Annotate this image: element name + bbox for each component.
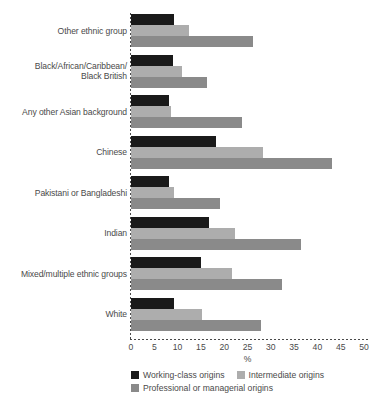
bar-row	[0, 279, 379, 290]
bar	[131, 228, 235, 239]
chart-legend: Working-class origins Intermediate origi…	[131, 368, 379, 394]
bar	[131, 158, 332, 169]
legend-label: Professional or managerial origins	[143, 383, 273, 393]
bar-row	[0, 55, 379, 66]
x-tick-label: 10	[166, 342, 190, 352]
bar	[131, 117, 242, 128]
bar	[131, 187, 174, 198]
bar-row	[0, 158, 379, 169]
bar	[131, 55, 173, 66]
bar	[131, 239, 301, 250]
bar-group	[0, 55, 379, 88]
bar	[131, 279, 282, 290]
bar-row	[0, 95, 379, 106]
bar-group	[0, 257, 379, 290]
bar-row	[0, 25, 379, 36]
x-tick-label: 5	[142, 342, 166, 352]
bar-row	[0, 239, 379, 250]
x-tick-label: 50	[352, 342, 376, 352]
bar-row	[0, 268, 379, 279]
bar	[131, 217, 209, 228]
bar-row	[0, 117, 379, 128]
x-tick-label: 40	[305, 342, 329, 352]
x-tick-label: 0	[119, 342, 143, 352]
legend-swatch-icon	[237, 371, 245, 379]
bar-row	[0, 298, 379, 309]
bar-group	[0, 95, 379, 128]
bar	[131, 106, 171, 117]
bar-row	[0, 228, 379, 239]
bar-row	[0, 36, 379, 47]
bar-group	[0, 176, 379, 209]
x-tick-label: 20	[212, 342, 236, 352]
bar	[131, 257, 201, 268]
legend-swatch-icon	[131, 384, 139, 392]
x-tick-label: 25	[236, 342, 260, 352]
bar	[131, 66, 182, 77]
bar-row	[0, 198, 379, 209]
bar	[131, 77, 207, 88]
x-tick-label: 45	[329, 342, 353, 352]
bar-group	[0, 14, 379, 47]
bar-row	[0, 187, 379, 198]
bar-row	[0, 106, 379, 117]
legend-item-working-class[interactable]: Working-class origins	[131, 370, 225, 380]
bar	[131, 14, 174, 25]
bar	[131, 95, 169, 106]
x-tick-label: 15	[189, 342, 213, 352]
bar-group	[0, 217, 379, 250]
bar-group	[0, 298, 379, 331]
legend-item-intermediate[interactable]: Intermediate origins	[237, 370, 324, 380]
x-tick-label: 30	[259, 342, 283, 352]
bar	[131, 268, 232, 279]
bar	[131, 198, 220, 209]
bar	[131, 298, 174, 309]
bar-row	[0, 320, 379, 331]
bar	[131, 136, 216, 147]
bar-chart: Other ethnic groupBlack/African/Caribbea…	[0, 0, 379, 397]
x-axis-line	[130, 339, 370, 340]
legend-item-professional[interactable]: Professional or managerial origins	[131, 383, 273, 393]
bar	[131, 309, 202, 320]
legend-row-2: Professional or managerial origins	[131, 381, 379, 394]
bar	[131, 176, 169, 187]
bar	[131, 36, 253, 47]
bar-row	[0, 217, 379, 228]
bar-row	[0, 66, 379, 77]
x-axis-title: %	[131, 354, 364, 364]
legend-label: Working-class origins	[143, 370, 225, 380]
x-tick-label: 35	[282, 342, 306, 352]
legend-label: Intermediate origins	[249, 370, 324, 380]
bar-row	[0, 147, 379, 158]
bar-row	[0, 136, 379, 147]
bar-row	[0, 14, 379, 25]
bar-row	[0, 176, 379, 187]
bar-group	[0, 136, 379, 169]
bar-row	[0, 309, 379, 320]
legend-row-1: Working-class origins Intermediate origi…	[131, 368, 379, 381]
bar	[131, 25, 189, 36]
legend-swatch-icon	[131, 371, 139, 379]
bar-row	[0, 77, 379, 88]
bar-row	[0, 257, 379, 268]
bar	[131, 147, 263, 158]
bar	[131, 320, 261, 331]
